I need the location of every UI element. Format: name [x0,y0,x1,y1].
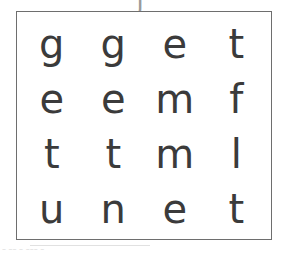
grid-cell: e [144,182,206,237]
grid-cell: g [83,18,145,73]
letter-glyph: e [101,79,126,119]
letter-glyph: t [105,134,121,174]
grid-cell: t [83,128,145,183]
letter-glyph: l [231,134,242,174]
grid-cell: g [21,18,83,73]
letter-glyph: m [155,79,194,119]
grid-cell: t [21,128,83,183]
grid-cell: t [206,18,268,73]
letter-glyph: n [101,189,126,229]
letter-glyph: m [155,134,194,174]
grid-cell: m [144,73,206,128]
grid-cell: u [21,182,83,237]
letter-grid-page: j g g e t e e m f [0,0,286,259]
letter-grid-box: g g e t e e m f t [16,11,272,240]
letter-glyph: e [162,24,187,64]
letter-glyph: t [228,189,244,229]
letter-glyph: u [39,189,64,229]
grid-cell: e [144,18,206,73]
grid-cell: m [144,128,206,183]
grid-cell: n [83,182,145,237]
letter-glyph: e [162,189,187,229]
grid-cell: e [21,73,83,128]
scan-artifact-text: – –– – ––– – [2,247,80,253]
letter-glyph: f [229,79,243,119]
letter-glyph: g [39,24,64,64]
grid-cell: l [206,128,268,183]
letter-grid: g g e t e e m f t [17,12,271,239]
letter-glyph: e [39,79,64,119]
clipped-descender-icon: j [126,0,154,11]
letter-glyph: t [44,134,60,174]
letter-glyph: t [228,24,244,64]
letter-glyph: g [101,24,126,64]
grid-cell: e [83,73,145,128]
grid-cell: t [206,182,268,237]
bottom-divider [30,245,150,246]
grid-cell: f [206,73,268,128]
